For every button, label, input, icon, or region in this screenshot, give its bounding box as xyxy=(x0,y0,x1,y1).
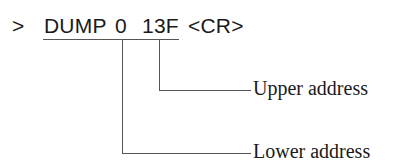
lower-address-arg: 0 xyxy=(115,14,127,38)
lower-leader-horizontal xyxy=(122,153,251,154)
upper-leader-vertical xyxy=(159,39,160,90)
lower-leader-vertical xyxy=(122,39,123,153)
prompt-symbol: > xyxy=(12,14,24,38)
upper-address-arg: 13F xyxy=(142,14,179,38)
upper-leader-horizontal xyxy=(159,90,251,91)
lower-address-label: Lower address xyxy=(253,140,370,163)
upper-address-label: Upper address xyxy=(253,77,368,100)
carriage-return-key: <CR> xyxy=(188,14,244,38)
command-keyword: DUMP xyxy=(44,14,107,38)
